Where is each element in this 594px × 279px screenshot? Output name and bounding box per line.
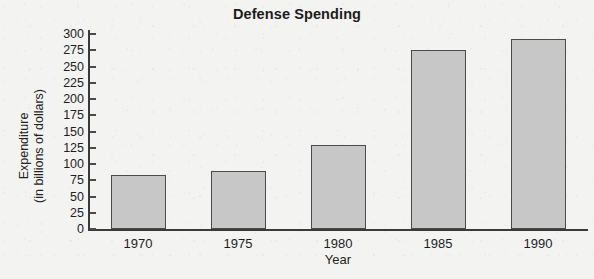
bar	[111, 175, 166, 229]
y-tick: 250	[44, 60, 94, 74]
y-tick-label: 75	[70, 173, 84, 187]
bar-chart: Defense Spending Expenditure (in billion…	[0, 0, 594, 279]
y-tick: 50	[44, 190, 94, 204]
y-tick-mark	[90, 212, 96, 214]
y-tick-mark	[90, 33, 96, 35]
y-tick-label: 225	[63, 76, 84, 90]
y-tick-mark	[90, 196, 96, 198]
y-tick: 150	[44, 125, 94, 139]
y-tick-mark	[90, 163, 96, 165]
y-tick: 100	[44, 157, 94, 171]
x-axis-line	[88, 229, 588, 231]
y-tick-mark	[90, 147, 96, 149]
x-tick-label: 1985	[388, 236, 488, 251]
y-tick: 125	[44, 141, 94, 155]
y-tick-mark	[90, 179, 96, 181]
y-tick-mark	[90, 228, 96, 230]
y-tick-mark	[90, 49, 96, 51]
plot-area: 0255075100125150175200225250275300 19701…	[88, 34, 588, 229]
y-tick: 25	[44, 206, 94, 220]
x-tick-label: 1980	[288, 236, 388, 251]
y-tick-label: 175	[63, 108, 84, 122]
chart-title: Defense Spending	[0, 6, 594, 22]
bar	[411, 50, 466, 229]
y-tick: 75	[44, 173, 94, 187]
y-tick-mark	[90, 131, 96, 133]
y-tick: 200	[44, 92, 94, 106]
bar	[311, 145, 366, 230]
y-tick-mark	[90, 114, 96, 116]
y-tick-mark	[90, 66, 96, 68]
y-tick-label: 50	[70, 190, 84, 204]
y-tick-label: 150	[63, 125, 84, 139]
y-tick-label: 0	[77, 222, 84, 236]
bar	[211, 171, 266, 230]
y-tick-mark	[90, 98, 96, 100]
y-tick-label: 275	[63, 43, 84, 57]
y-tick-label: 25	[70, 206, 84, 220]
y-tick: 300	[44, 27, 94, 41]
y-tick: 225	[44, 76, 94, 90]
x-axis-title: Year	[88, 252, 588, 267]
y-tick: 175	[44, 108, 94, 122]
y-tick: 275	[44, 43, 94, 57]
y-axis-title: Expenditure (in billions of dollars)	[17, 51, 47, 241]
bar	[511, 39, 566, 229]
y-tick-label: 100	[63, 157, 84, 171]
x-tick-label: 1990	[488, 236, 588, 251]
y-tick-mark	[90, 82, 96, 84]
x-tick-label: 1970	[88, 236, 188, 251]
y-tick-label: 300	[63, 27, 84, 41]
x-tick-label: 1975	[188, 236, 288, 251]
y-tick: 0	[44, 222, 94, 236]
y-tick-label: 250	[63, 60, 84, 74]
y-tick-label: 200	[63, 92, 84, 106]
y-tick-label: 125	[63, 141, 84, 155]
